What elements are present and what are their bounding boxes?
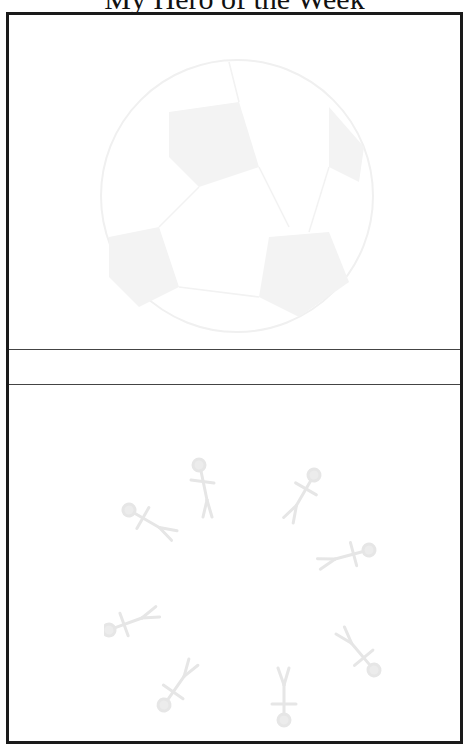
hero-name-field[interactable] bbox=[9, 350, 460, 384]
soccer-ball-icon bbox=[99, 57, 375, 335]
circle-of-people-icon bbox=[104, 440, 394, 730]
name-line-bottom bbox=[9, 384, 460, 385]
certificate-frame bbox=[6, 12, 463, 744]
